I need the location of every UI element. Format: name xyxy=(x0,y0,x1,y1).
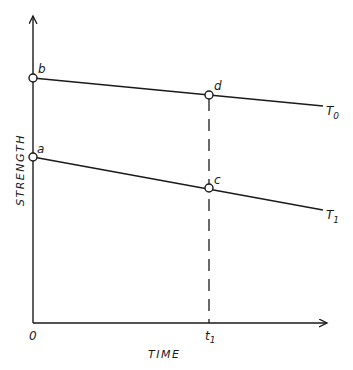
point-d-label: d xyxy=(214,79,222,93)
point-a-label: a xyxy=(37,142,44,156)
point-b xyxy=(29,74,37,82)
line-t1 xyxy=(33,157,323,210)
t1-tick-label-sub: 1 xyxy=(210,335,216,345)
y-axis-title: STRENGTH xyxy=(14,134,27,206)
origin-label: 0 xyxy=(29,329,37,343)
point-a xyxy=(29,153,37,161)
point-c-label: c xyxy=(214,173,221,187)
line-t1-label-sub: 1 xyxy=(333,215,339,225)
strength-time-diagram: b a d c T0 T1 0 t1 TIME STRENGTH xyxy=(0,0,353,370)
line-t0 xyxy=(33,78,323,106)
point-c xyxy=(205,184,213,192)
line-t0-label: T0 xyxy=(326,104,339,121)
x-axis-title: TIME xyxy=(148,348,180,361)
point-d xyxy=(205,91,213,99)
line-t0-label-sub: 0 xyxy=(333,111,339,121)
line-t1-label: T1 xyxy=(326,208,339,225)
point-b-label: b xyxy=(38,62,46,76)
t1-tick-label: t1 xyxy=(205,329,215,345)
